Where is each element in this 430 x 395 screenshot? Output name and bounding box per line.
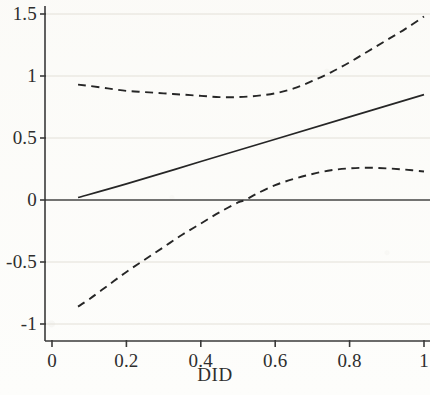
y-tick-label: 1 [27, 66, 37, 85]
x-axis-title: DID [0, 364, 430, 386]
chart-figure: -1-0.500.511.5 00.20.40.60.81 DID [0, 0, 430, 395]
tick-marks [40, 14, 424, 347]
series-line-0 [78, 16, 424, 97]
y-tick-label: 1.5 [13, 4, 37, 23]
series-line-1 [78, 95, 424, 198]
y-tick-label: 0 [27, 190, 37, 209]
gridlines [45, 14, 430, 324]
y-tick-label: -0.5 [6, 252, 37, 271]
series-line-2 [78, 168, 424, 307]
y-tick-label: 0.5 [13, 128, 37, 147]
y-tick-label: -1 [21, 314, 37, 333]
plot-canvas [0, 0, 430, 395]
axis-lines [45, 6, 430, 341]
data-series [78, 16, 424, 306]
